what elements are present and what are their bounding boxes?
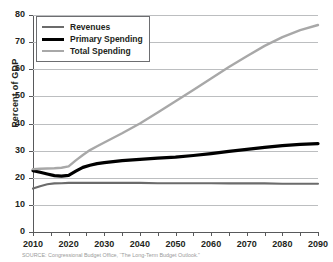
legend-item: Total Spending [42,45,143,57]
legend-item: Primary Spending [42,33,143,45]
legend-swatch-primary-spending-icon [42,38,64,41]
chart-legend: Revenues Primary Spending Total Spending [36,16,150,62]
legend-label: Total Spending [70,46,131,56]
legend-swatch-revenues-icon [42,26,64,28]
legend-swatch-total-spending-icon [42,50,64,52]
source-note: SOURCE: Congressional Budget Office, “Th… [22,252,322,259]
legend-label: Revenues [70,22,110,32]
legend-label: Primary Spending [70,34,143,44]
series-line [33,183,318,189]
legend-item: Revenues [42,21,143,33]
